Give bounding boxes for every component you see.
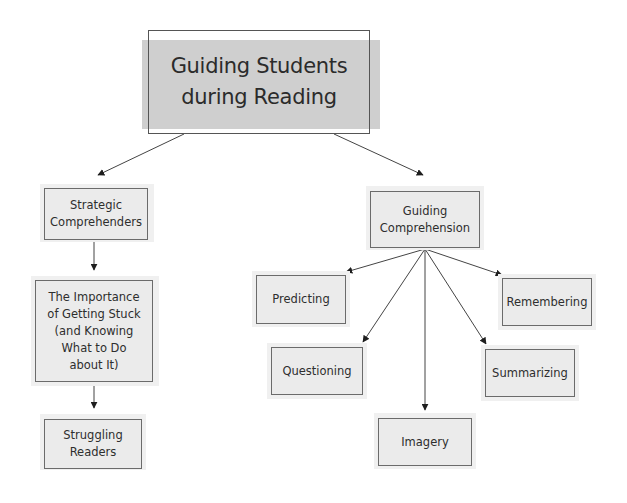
node-label: Strategic (50, 197, 142, 214)
node-importance-of-getting-stuck: The Importance of Getting Stuck (and Kno… (35, 280, 153, 382)
concept-map: Guiding Students during Reading Strategi… (0, 0, 627, 503)
node-imagery: Imagery (378, 418, 472, 466)
node-label: The Importance (47, 289, 140, 306)
edge-guiding-to-summarizing (425, 249, 486, 344)
edge-title-to-guiding-comprehension (334, 134, 423, 175)
node-label: What to Do (47, 340, 140, 357)
node-strategic-comprehenders: Strategic Comprehenders (44, 188, 148, 240)
node-struggling-readers: Struggling Readers (44, 419, 142, 469)
node-questioning: Questioning (271, 347, 363, 395)
node-summarizing: Summarizing (485, 349, 575, 397)
page-title: Guiding Students during Reading (171, 51, 348, 113)
node-label: Questioning (282, 363, 351, 380)
edge-guiding-to-predicting (346, 249, 425, 272)
title-node: Guiding Students during Reading (148, 30, 370, 134)
node-label: of Getting Stuck (47, 306, 140, 323)
node-label: about It) (47, 357, 140, 374)
edge-guiding-to-remembering (425, 249, 502, 275)
node-label: Predicting (272, 291, 329, 308)
node-label: Readers (63, 444, 122, 461)
node-label: Summarizing (492, 365, 568, 382)
node-label: Comprehension (380, 220, 470, 237)
node-label: Comprehenders (50, 214, 142, 231)
node-label: Remembering (507, 294, 588, 311)
edge-title-to-strategic (98, 134, 184, 175)
node-label: Struggling (63, 427, 122, 444)
node-predicting: Predicting (256, 275, 346, 324)
node-label: Guiding (380, 203, 470, 220)
edge-guiding-to-questioning (363, 249, 425, 342)
node-label: (and Knowing (47, 323, 140, 340)
title-line-1: Guiding Students (171, 51, 348, 82)
node-label: Imagery (401, 434, 449, 451)
node-guiding-comprehension: Guiding Comprehension (370, 191, 480, 248)
title-line-2: during Reading (171, 82, 348, 113)
node-remembering: Remembering (502, 278, 592, 326)
